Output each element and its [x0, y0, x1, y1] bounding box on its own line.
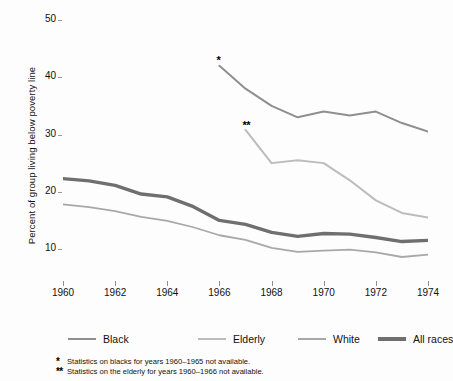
annotation-star-elderly: ** [243, 122, 251, 128]
poverty-line-chart: Percent of group living below poverty li… [0, 0, 453, 381]
y-tick-label: 20 [34, 185, 56, 196]
y-tick-label: 30 [34, 128, 56, 139]
y-tick-mark [58, 192, 62, 193]
y-tick-label: 50 [34, 13, 56, 24]
chart-legend: BlackElderlyWhiteAll races [0, 330, 453, 352]
chart-footnotes: *Statistics on blacks for years 1960–196… [56, 357, 446, 376]
legend-item-all-races[interactable]: All races [378, 330, 453, 348]
plot-area: *** [63, 14, 428, 283]
y-tick-mark [58, 20, 62, 21]
y-tick-mark [58, 135, 62, 136]
series-lines [63, 14, 428, 283]
y-tick-mark [58, 77, 62, 78]
x-tick-label: 1960 [46, 287, 80, 298]
legend-item-black[interactable]: Black [68, 330, 129, 348]
legend-item-elderly[interactable]: Elderly [198, 330, 265, 348]
legend-swatch-icon [298, 338, 326, 340]
line-series-black [219, 66, 428, 132]
legend-swatch-icon [68, 338, 96, 340]
y-tick-label: 10 [34, 242, 56, 253]
x-tick-label: 1962 [98, 287, 132, 298]
legend-label: Elderly [233, 333, 265, 345]
legend-swatch-icon [378, 337, 406, 340]
legend-swatch-icon [198, 338, 226, 340]
x-tick-mark [428, 281, 429, 286]
footnote-row: *Statistics on blacks for years 1960–196… [56, 357, 446, 367]
legend-item-white[interactable]: White [298, 330, 360, 348]
x-tick-label: 1968 [255, 287, 289, 298]
footnote-text: Statistics on the elderly for years 1960… [67, 367, 264, 377]
line-series-elderly [246, 130, 429, 218]
legend-label: White [333, 333, 360, 345]
line-series-white [63, 204, 428, 257]
x-tick-label: 1974 [411, 287, 445, 298]
x-tick-label: 1972 [359, 287, 393, 298]
legend-label: Black [103, 333, 129, 345]
x-tick-label: 1964 [150, 287, 184, 298]
x-tick-label: 1966 [202, 287, 236, 298]
footnote-text: Statistics on blacks for years 1960–1965… [67, 357, 250, 367]
x-tick-label: 1970 [307, 287, 341, 298]
line-series-all-races [63, 179, 428, 242]
legend-label: All races [413, 333, 453, 345]
y-tick-mark [58, 249, 62, 250]
footnote-row: **Statistics on the elderly for years 19… [56, 367, 446, 377]
annotation-star-black: * [216, 57, 220, 63]
footnote-marker: * [56, 357, 67, 366]
y-tick-label: 40 [34, 70, 56, 81]
footnote-marker: ** [56, 367, 67, 376]
